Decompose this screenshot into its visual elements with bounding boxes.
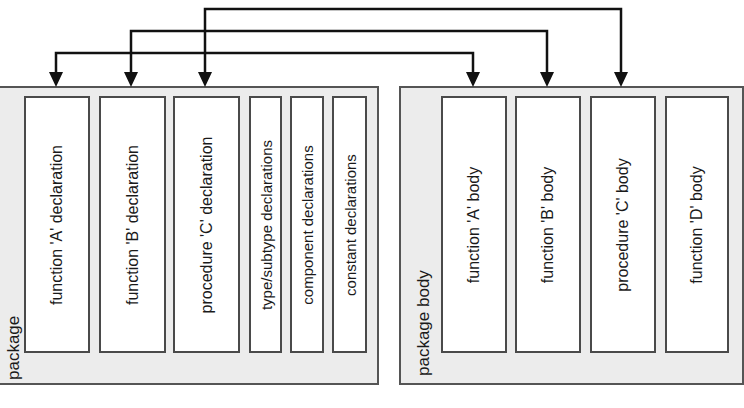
connector-c-line [205, 9, 621, 74]
function-a-body-box: function 'A' body [441, 96, 507, 353]
procedure-c-body-box: procedure 'C' body [590, 96, 656, 353]
arrowhead-b-body-icon [540, 72, 554, 87]
arrowhead-c-body-icon [614, 72, 628, 87]
function-b-declaration-box: function 'B' declaration [99, 96, 166, 353]
type-subtype-declarations-label: type/subtype declarations [257, 139, 274, 309]
package-body-label: package body [414, 270, 434, 376]
connector-a-line [56, 53, 473, 74]
procedure-c-declaration-box: procedure 'C' declaration [173, 96, 240, 353]
procedure-c-body-label: procedure 'C' body [614, 158, 632, 291]
function-a-body-label: function 'A' body [465, 166, 483, 282]
package-label: package [4, 316, 24, 380]
function-a-declaration-box: function 'A' declaration [24, 96, 90, 353]
arrowhead-b-declaration-icon [124, 72, 138, 87]
function-b-declaration-label: function 'B' declaration [124, 145, 142, 305]
constant-declarations-box: constant declarations [332, 96, 367, 353]
connector-b-line [131, 31, 547, 74]
arrowhead-a-body-icon [466, 72, 480, 87]
arrowhead-a-declaration-icon [49, 72, 63, 87]
arrowhead-c-declaration-icon [198, 72, 212, 87]
component-declarations-label: component declarations [299, 145, 316, 304]
constant-declarations-label: constant declarations [341, 154, 358, 296]
component-declarations-box: component declarations [290, 96, 324, 353]
function-a-declaration-label: function 'A' declaration [48, 145, 66, 305]
function-d-body-label: function 'D' body [688, 166, 706, 283]
type-subtype-declarations-box: type/subtype declarations [249, 96, 282, 353]
procedure-c-declaration-label: procedure 'C' declaration [198, 136, 216, 313]
function-d-body-box: function 'D' body [665, 96, 729, 353]
function-b-body-label: function 'B' body [539, 166, 557, 282]
function-b-body-box: function 'B' body [515, 96, 581, 353]
